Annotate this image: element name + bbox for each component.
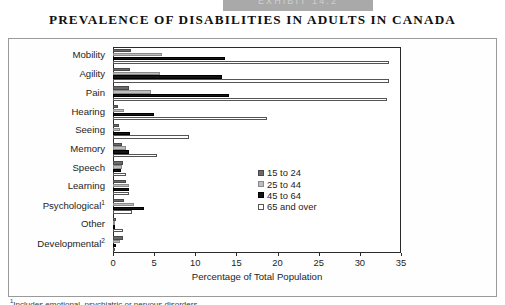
bar xyxy=(113,165,122,168)
category-label-seeing: Seeing xyxy=(75,124,105,135)
bar xyxy=(113,192,129,195)
x-tick-mark xyxy=(195,253,196,256)
bar xyxy=(113,135,189,138)
bar xyxy=(113,169,121,172)
bar xyxy=(113,75,222,78)
legend-label: 15 to 24 xyxy=(267,167,301,178)
bar xyxy=(113,173,126,176)
x-tick-label: 25 xyxy=(313,257,323,268)
bar xyxy=(113,180,126,183)
bar-group xyxy=(113,178,401,197)
page-title: PREVALENCE OF DISABILITIES IN ADULTS IN … xyxy=(0,12,505,28)
bar xyxy=(113,117,267,120)
bar xyxy=(113,207,144,210)
bar xyxy=(113,146,126,149)
bar-group xyxy=(113,141,401,160)
bar xyxy=(113,240,120,243)
bar xyxy=(113,199,124,202)
exhibit-band-label: EXHIBIT 14.2 xyxy=(223,0,373,5)
x-tick-mark xyxy=(360,253,361,256)
x-tick-mark xyxy=(236,253,237,256)
bar xyxy=(113,203,134,206)
x-tick-label: 15 xyxy=(231,257,241,268)
legend-label: 25 to 44 xyxy=(267,179,301,190)
bar-group xyxy=(113,84,401,103)
category-label-agility: Agility xyxy=(79,68,105,79)
bar xyxy=(113,98,387,101)
bar xyxy=(113,225,115,228)
legend-item[interactable]: 15 to 24 xyxy=(258,167,317,178)
bar-group xyxy=(113,122,401,141)
bar xyxy=(113,221,115,224)
x-tick-label: 30 xyxy=(355,257,365,268)
category-label-developmental: Developmental2 xyxy=(37,237,105,249)
legend-item[interactable]: 25 to 44 xyxy=(258,178,317,189)
legend-label: 45 to 64 xyxy=(267,190,301,201)
x-tick-label: 5 xyxy=(152,257,157,268)
x-tick-mark xyxy=(401,253,402,256)
bar xyxy=(113,154,157,157)
bar xyxy=(113,229,123,232)
category-label-hearing: Hearing xyxy=(71,106,105,117)
legend-swatch-icon xyxy=(258,181,264,187)
bar-group xyxy=(113,47,401,66)
bar-groups xyxy=(113,47,401,253)
bar xyxy=(113,86,129,89)
legend-item[interactable]: 65 and over xyxy=(258,201,317,212)
bar xyxy=(113,72,160,75)
x-tick-label: 0 xyxy=(110,257,115,268)
bar-group xyxy=(113,197,401,216)
chart-legend: 15 to 2425 to 4445 to 6465 and over xyxy=(258,167,317,213)
chart-page: EXHIBIT 14.2 PREVALENCE OF DISABILITIES … xyxy=(0,0,505,305)
x-tick-mark xyxy=(319,253,320,256)
category-label-learning: Learning xyxy=(68,180,105,191)
x-axis-ticks: 05101520253035 xyxy=(113,253,401,269)
x-tick-label: 20 xyxy=(272,257,282,268)
legend-label: 65 and over xyxy=(267,201,317,212)
bar xyxy=(113,68,130,71)
bar xyxy=(113,218,116,221)
bar xyxy=(113,105,118,108)
legend-item[interactable]: 45 to 64 xyxy=(258,190,317,201)
bar-group xyxy=(113,216,401,235)
x-tick-mark xyxy=(154,253,155,256)
category-label-memory: Memory xyxy=(70,143,105,154)
category-label-other: Other xyxy=(81,218,105,229)
bar xyxy=(113,128,120,131)
x-tick-mark xyxy=(278,253,279,256)
bar xyxy=(113,49,131,52)
category-label-mobility: Mobility xyxy=(72,49,105,60)
bar xyxy=(113,248,115,251)
bar xyxy=(113,244,116,247)
bar xyxy=(113,94,229,97)
x-tick-label: 10 xyxy=(190,257,200,268)
footnote-text: 1Includes emotional, psychiatric or nerv… xyxy=(10,298,490,305)
bar xyxy=(113,150,129,153)
legend-swatch-icon xyxy=(258,170,264,176)
bar xyxy=(113,188,129,191)
bar-group xyxy=(113,66,401,85)
bar xyxy=(113,161,123,164)
bar xyxy=(113,109,124,112)
bar xyxy=(113,210,132,213)
legend-swatch-icon xyxy=(258,192,264,198)
bar xyxy=(113,124,119,127)
x-tick-label: 35 xyxy=(396,257,406,268)
bar xyxy=(113,132,130,135)
bar xyxy=(113,53,162,56)
bar-group xyxy=(113,159,401,178)
category-label-pain: Pain xyxy=(86,87,105,98)
legend-swatch-icon xyxy=(258,204,264,210)
bar xyxy=(113,143,122,146)
bar xyxy=(113,61,389,64)
category-axis: MobilityAgilityPainHearingSeeingMemorySp… xyxy=(0,47,110,253)
bar-group xyxy=(113,234,401,253)
bar-group xyxy=(113,103,401,122)
x-tick-mark xyxy=(113,253,114,256)
bar xyxy=(113,236,123,239)
bar xyxy=(113,57,225,60)
bar xyxy=(113,90,151,93)
bar xyxy=(113,184,129,187)
category-label-psychological: Psychological1 xyxy=(43,199,105,211)
x-axis-label: Percentage of Total Population xyxy=(113,271,401,282)
